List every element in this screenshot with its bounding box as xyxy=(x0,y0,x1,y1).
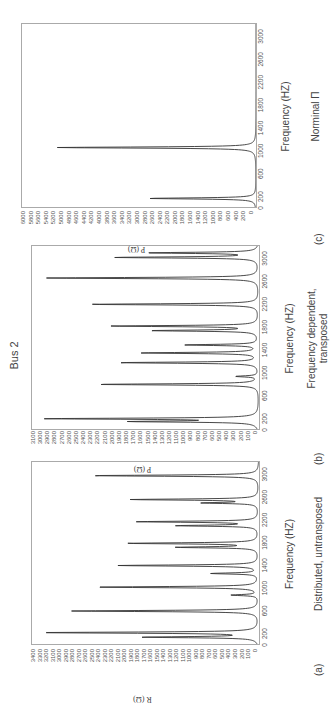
y-tick-labels-c: 0200400600800100012001400160018002000220… xyxy=(20,211,254,238)
y-axis-label-a: R (Ω) xyxy=(133,695,152,704)
y-tick: 3400 xyxy=(119,211,125,238)
y-tick: 5200 xyxy=(50,211,56,238)
y-tick: 100 xyxy=(245,431,251,458)
y-tick: 5000 xyxy=(58,211,64,238)
y-tick: 2100 xyxy=(102,431,108,458)
y-tick: 2900 xyxy=(44,431,50,458)
y-tick: 2600 xyxy=(149,211,155,238)
caption-a: Distributed, untransposed xyxy=(313,463,325,645)
panel-b: 0100200300400500600700800900100011001200… xyxy=(0,231,331,471)
y-tick: 0 xyxy=(248,211,254,238)
y-tick: 2200 xyxy=(108,649,114,689)
y-tick: 2800 xyxy=(69,649,75,689)
y-tick: 800 xyxy=(195,431,201,458)
y-tick: 2400 xyxy=(95,649,101,689)
y-tick: 2800 xyxy=(142,211,148,238)
y-tick: 3300 xyxy=(37,649,43,689)
x-tick: 200 xyxy=(261,413,268,424)
y-tick: 2600 xyxy=(82,649,88,689)
x-tick: 200 xyxy=(257,191,264,202)
y-tick: 1600 xyxy=(187,211,193,238)
x-tick: 0 xyxy=(261,643,268,647)
x-tick: 1400 xyxy=(261,343,268,357)
y-tick: 400 xyxy=(225,649,231,689)
y-tick: 1800 xyxy=(123,431,129,458)
plot-a xyxy=(31,461,260,645)
y-tick: 3800 xyxy=(104,211,110,238)
y-tick: 600 xyxy=(212,649,218,689)
y-tick: 3000 xyxy=(37,431,43,458)
x-tick: 1000 xyxy=(261,366,268,380)
y-tick: 200 xyxy=(240,211,246,238)
y-tick: 1700 xyxy=(141,649,147,689)
y-tick: 500 xyxy=(216,431,222,458)
y-tick: 2600 xyxy=(66,431,72,458)
y-tick: 4800 xyxy=(66,211,72,238)
y-tick: 1200 xyxy=(173,649,179,689)
x-tick: 600 xyxy=(261,605,268,616)
spectrum-line-c xyxy=(22,24,256,207)
panel-letter-b: (b) xyxy=(313,453,324,465)
y-tick: 0 xyxy=(252,649,258,689)
panel-a: 0100200300400500600700800900100011001200… xyxy=(0,451,331,711)
x-tick: 200 xyxy=(261,628,268,639)
x-tick: 0 xyxy=(261,428,268,432)
y-tick: 900 xyxy=(187,431,193,458)
spectrum-line-a xyxy=(32,462,259,644)
y-tick: 2000 xyxy=(172,211,178,238)
y-tick: 1100 xyxy=(180,649,186,689)
x-tick: 1800 xyxy=(261,320,268,334)
y-tick: 1800 xyxy=(179,211,185,238)
y-tick: 3400 xyxy=(30,649,36,689)
y-tick: 1500 xyxy=(145,431,151,458)
y-tick: 3100 xyxy=(30,431,36,458)
y-tick: 2000 xyxy=(109,431,115,458)
y-tick: 100 xyxy=(245,649,251,689)
x-tick: 3000 xyxy=(261,251,268,265)
y-tick: 1900 xyxy=(116,431,122,458)
y-tick: 1300 xyxy=(159,431,165,458)
x-tick: 2600 xyxy=(261,274,268,288)
x-tick: 2600 xyxy=(257,52,264,66)
x-tick: 600 xyxy=(261,390,268,401)
y-tick: 1400 xyxy=(195,211,201,238)
y-tick: 300 xyxy=(230,431,236,458)
x-axis-label-b: Frequency (HZ) xyxy=(284,247,295,430)
x-axis-label-a: Frequency (HZ) xyxy=(284,463,295,645)
y-tick: 2500 xyxy=(73,431,79,458)
spectrum-line-b xyxy=(32,246,259,429)
y-tick: 2800 xyxy=(51,431,57,458)
y-tick: 700 xyxy=(206,649,212,689)
y-tick: 2300 xyxy=(87,431,93,458)
y-tick: 2100 xyxy=(115,649,121,689)
y-tick: 3200 xyxy=(126,211,132,238)
panel-letter-c: (c) xyxy=(313,233,324,245)
y-tick: 1000 xyxy=(210,211,216,238)
y-tick: 2900 xyxy=(63,649,69,689)
x-tick: 0 xyxy=(257,206,264,210)
y-tick: 200 xyxy=(239,649,245,689)
figure-stage: Bus 2 0100200300400500600700800900100011… xyxy=(0,0,331,711)
y-tick: 1700 xyxy=(130,431,136,458)
x-tick: 1000 xyxy=(261,581,268,595)
y-tick: 1200 xyxy=(166,431,172,458)
y-tick: 4000 xyxy=(96,211,102,238)
y-tick: 5600 xyxy=(35,211,41,238)
y-axis-label-c: P (Ω) xyxy=(128,245,145,254)
x-tick: 1800 xyxy=(257,98,264,112)
y-tick: 0 xyxy=(252,431,258,458)
y-tick: 5800 xyxy=(28,211,34,238)
y-tick: 1100 xyxy=(173,431,179,458)
y-tick: 1900 xyxy=(128,649,134,689)
y-tick: 500 xyxy=(219,649,225,689)
y-tick: 700 xyxy=(202,431,208,458)
x-tick: 1400 xyxy=(257,121,264,135)
y-tick: 2400 xyxy=(80,431,86,458)
y-tick: 4600 xyxy=(73,211,79,238)
y-tick: 1300 xyxy=(167,649,173,689)
y-tick: 3000 xyxy=(134,211,140,238)
x-axis-label-c: Frequency (HZ) xyxy=(280,25,291,208)
y-tick: 1000 xyxy=(186,649,192,689)
x-tick: 2200 xyxy=(261,297,268,311)
plot-b xyxy=(31,245,260,430)
